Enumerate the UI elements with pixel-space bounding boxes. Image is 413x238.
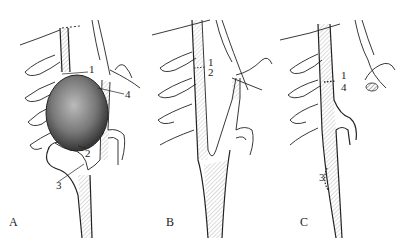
panel-a-label-1: 1	[89, 64, 95, 75]
panel-c-label-4: 4	[341, 82, 347, 93]
anatomical-diagram: 1 4 2 3 A 1 2 B 1 4 3 C	[0, 0, 413, 238]
panel-b-letter: B	[166, 216, 174, 228]
panel-b-label-2: 2	[208, 67, 214, 78]
panel-a-label-4: 4	[125, 89, 131, 100]
panel-c-label-3: 3	[319, 172, 325, 183]
panel-a-label-2: 2	[85, 148, 91, 159]
panel-c-label-1: 1	[341, 70, 347, 81]
panel-c-letter: C	[300, 216, 308, 228]
panel-a-label-3: 3	[56, 180, 62, 191]
diagram-drawing	[0, 0, 413, 238]
panel-a-letter: A	[9, 216, 18, 228]
